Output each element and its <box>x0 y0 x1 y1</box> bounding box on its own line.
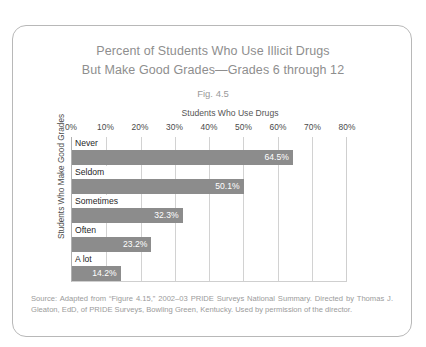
category-label: A lot <box>75 253 95 266</box>
bar: 64.5% <box>72 150 293 165</box>
bar-row: Never64.5% <box>72 137 346 166</box>
x-tick-label: 10% <box>97 122 114 132</box>
figure-title-line-1: Percent of Students Who Use Illicit Drug… <box>13 42 413 61</box>
bar-row: A lot14.2% <box>72 253 346 282</box>
plot-area: Never64.5%Seldom50.1%Sometimes32.3%Often… <box>71 137 347 282</box>
figure-titles: Percent of Students Who Use Illicit Drug… <box>13 42 413 101</box>
x-axis-tick-labels: 0%10%20%30%40%50%60%70%80% <box>71 122 347 136</box>
source-note: Source: Adapted from “Figure 4.15,” 2002… <box>31 294 393 315</box>
x-tick-label: 20% <box>132 122 149 132</box>
x-axis-title: Students Who Use Drugs <box>71 108 389 118</box>
x-tick-label: 30% <box>166 122 183 132</box>
bar-value-label: 50.1% <box>215 179 239 194</box>
bar-value-label: 64.5% <box>265 150 289 165</box>
bar-row: Seldom50.1% <box>72 166 346 195</box>
bar-value-label: 23.2% <box>123 237 147 252</box>
figure-card: Percent of Students Who Use Illicit Drug… <box>12 25 412 337</box>
figure-number: Fig. 4.5 <box>13 87 413 101</box>
bar-row: Often23.2% <box>72 224 346 253</box>
x-tick-label: 60% <box>270 122 287 132</box>
figure-page: Percent of Students Who Use Illicit Drug… <box>0 0 426 347</box>
category-label: Often <box>75 224 99 237</box>
bar-row: Sometimes32.3% <box>72 195 346 224</box>
x-tick-label: 50% <box>235 122 252 132</box>
bar-value-label: 32.3% <box>154 208 178 223</box>
bar-rows: Never64.5%Seldom50.1%Sometimes32.3%Often… <box>72 137 346 281</box>
bar-value-label: 14.2% <box>92 266 116 281</box>
bar: 14.2% <box>72 266 121 281</box>
category-label: Seldom <box>75 166 107 179</box>
x-tick-label: 80% <box>339 122 356 132</box>
category-label: Sometimes <box>75 195 121 208</box>
x-tick-label: 40% <box>201 122 218 132</box>
x-tick-label: 70% <box>304 122 321 132</box>
bar-chart: Students Who Use Drugs Students Who Make… <box>31 108 395 288</box>
figure-title-line-2: But Make Good Grades—Grades 6 through 12 <box>13 61 413 80</box>
bar: 50.1% <box>72 179 244 194</box>
bar: 23.2% <box>72 237 151 252</box>
bar: 32.3% <box>72 208 183 223</box>
category-label: Never <box>75 137 101 150</box>
x-tick-label: 0% <box>65 122 77 132</box>
